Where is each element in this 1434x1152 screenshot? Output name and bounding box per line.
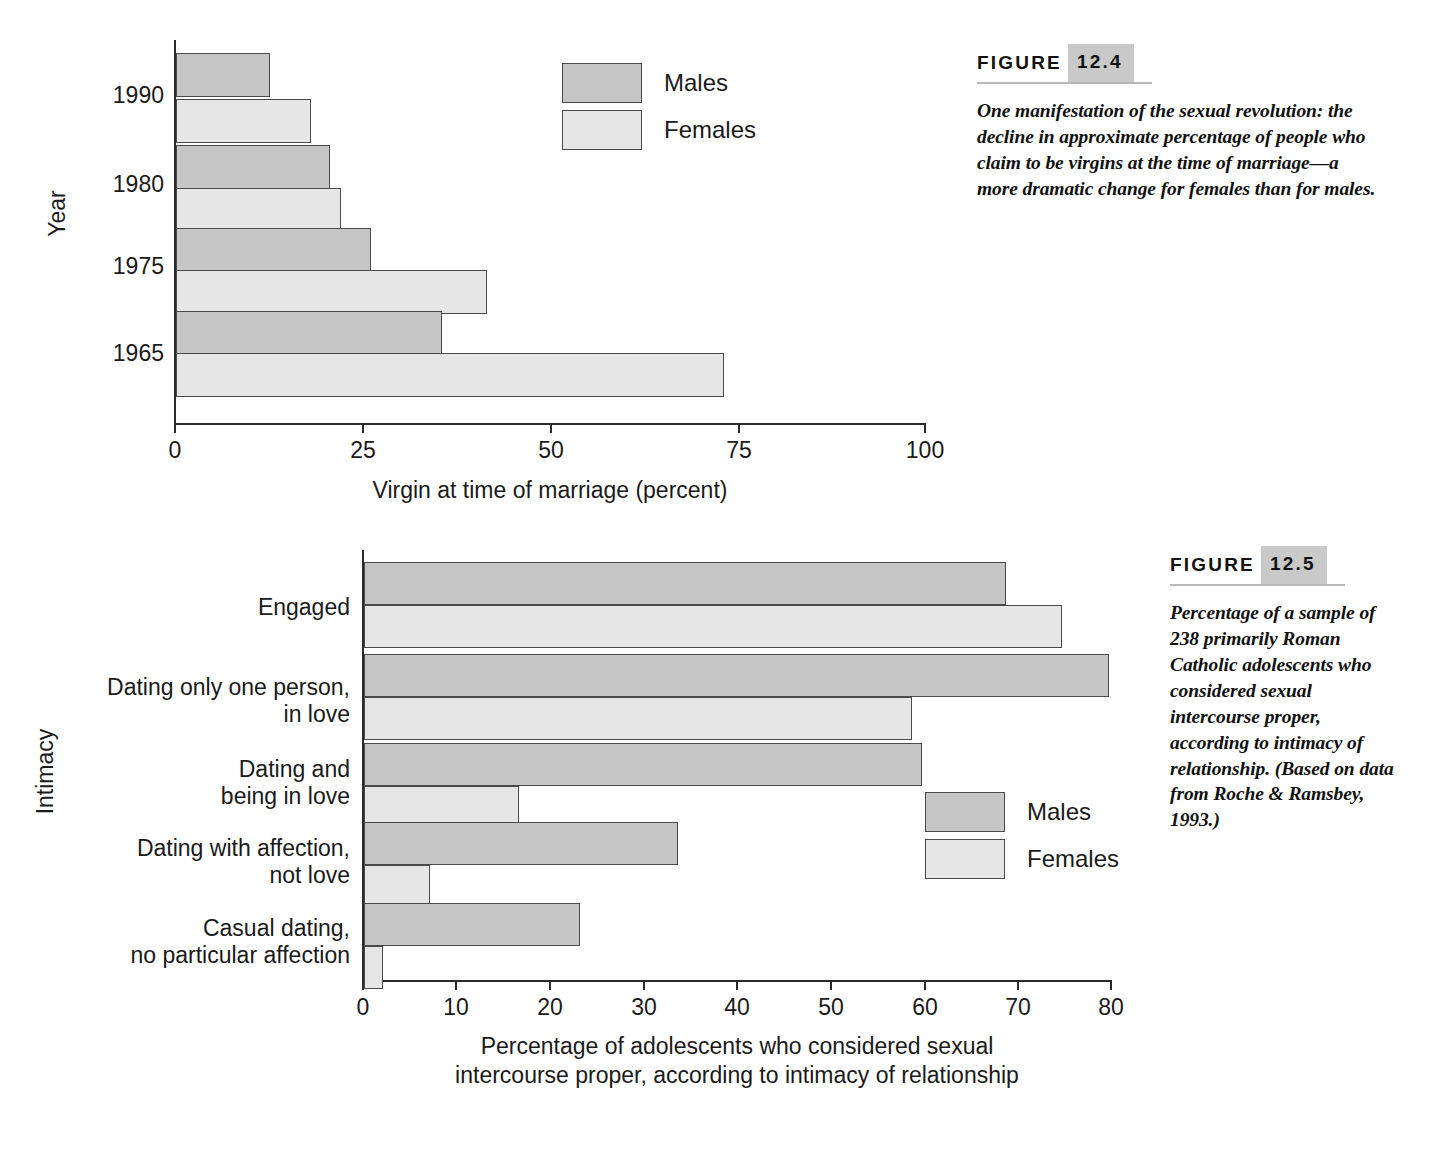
chart1-bar-1980-males bbox=[176, 145, 330, 189]
chart2-bar-casual-dating-females bbox=[364, 946, 383, 989]
legend-swatch-females-icon bbox=[562, 110, 642, 150]
chart2-bar-dating-one-person-females bbox=[364, 697, 912, 740]
chart2-bar-casual-dating-males bbox=[364, 903, 580, 946]
chart1-bar-1980-females bbox=[176, 188, 341, 232]
chart2-xticklabel-80: 80 bbox=[1071, 994, 1151, 1021]
chart1-xticklabel-25: 25 bbox=[323, 437, 403, 464]
chart2-xticklabel-10: 10 bbox=[416, 994, 496, 1021]
chart2-bar-engaged-males bbox=[364, 562, 1006, 605]
chart1-category-label-1980: 1980 bbox=[40, 171, 164, 198]
figure-12-5-caption-text: Percentage of a sample of 238 primarily … bbox=[1170, 600, 1402, 833]
figure-12-5-caption-block: FIGURE 12.5 Percentage of a sample of 23… bbox=[1170, 548, 1402, 833]
chart1-bar-1965-males bbox=[176, 311, 442, 355]
chart1-bar-1975-females bbox=[176, 270, 487, 314]
chart2-x-axis-title-line1: Percentage of adolescents who considered… bbox=[312, 1032, 1162, 1061]
chart1-xtick-75 bbox=[738, 423, 740, 433]
chart1-xticklabel-75: 75 bbox=[699, 437, 779, 464]
figure-12-5-number: 12.5 bbox=[1270, 553, 1316, 574]
figure-12-4-number-box: 12.4 bbox=[1068, 44, 1134, 82]
chart2-bar-dating-affection-males bbox=[364, 822, 678, 865]
chart2-category-label-dating-affection: Dating with affection,not love bbox=[30, 835, 350, 889]
figure-12-4-number: 12.4 bbox=[1077, 51, 1123, 72]
chart2-x-axis-title-line2: intercourse proper, according to intimac… bbox=[312, 1061, 1162, 1090]
chart1-xticklabel-0: 0 bbox=[135, 437, 215, 464]
figure-12-4-label: FIGURE bbox=[977, 52, 1062, 74]
chart2-xtick-0 bbox=[362, 980, 364, 990]
figure-12-4-heading: FIGURE 12.4 bbox=[977, 46, 1377, 80]
chart2-x-axis-title: Percentage of adolescents who considered… bbox=[312, 1032, 1162, 1090]
chart1-legend-row-males: Males bbox=[562, 62, 756, 104]
chart1-legend-row-females: Females bbox=[562, 109, 756, 151]
chart2-xtick-40 bbox=[736, 980, 738, 990]
chart2-xticklabel-20: 20 bbox=[510, 994, 590, 1021]
chart2-legend-row-females: Females bbox=[925, 838, 1119, 880]
chart2-xtick-10 bbox=[455, 980, 457, 990]
chart1-category-label-1990: 1990 bbox=[40, 82, 164, 109]
chart1-bar-1975-males bbox=[176, 228, 371, 272]
legend-swatch-males-icon bbox=[562, 63, 642, 103]
chart1-x-axis-title: Virgin at time of marriage (percent) bbox=[174, 476, 926, 505]
chart-figure-12-5: Intimacy Engaged Dating only one person,… bbox=[0, 530, 1150, 1100]
chart1-category-label-1965: 1965 bbox=[40, 340, 164, 367]
chart2-legend-row-males: Males bbox=[925, 791, 1119, 833]
chart2-xtick-20 bbox=[549, 980, 551, 990]
chart2-bar-engaged-females bbox=[364, 605, 1062, 648]
chart1-category-label-1975: 1975 bbox=[40, 253, 164, 280]
legend-swatch-females-icon bbox=[925, 839, 1005, 879]
chart2-xticklabel-40: 40 bbox=[697, 994, 777, 1021]
chart2-xtick-70 bbox=[1017, 980, 1019, 990]
chart2-xtick-80 bbox=[1110, 980, 1112, 990]
chart1-legend: Males Females bbox=[562, 62, 756, 151]
figure-12-4-caption-block: FIGURE 12.4 One manifestation of the sex… bbox=[977, 46, 1377, 202]
chart2-category-label-engaged: Engaged bbox=[30, 594, 350, 621]
chart2-xticklabel-60: 60 bbox=[885, 994, 965, 1021]
chart2-category-label-dating-one-person: Dating only one person,in love bbox=[30, 674, 350, 728]
figure-12-4-rule bbox=[977, 82, 1152, 84]
chart2-xticklabel-70: 70 bbox=[978, 994, 1058, 1021]
chart1-xtick-50 bbox=[550, 423, 552, 433]
figure-12-5-heading: FIGURE 12.5 bbox=[1170, 548, 1402, 582]
chart1-xtick-0 bbox=[174, 423, 176, 433]
chart2-legend-label-females: Females bbox=[1027, 845, 1119, 873]
chart1-xticklabel-100: 100 bbox=[885, 437, 965, 464]
chart2-legend-label-males: Males bbox=[1027, 798, 1091, 826]
figure-12-5-rule bbox=[1170, 584, 1345, 586]
figure-12-4-caption-text: One manifestation of the sexual revoluti… bbox=[977, 98, 1377, 202]
chart2-xtick-60 bbox=[924, 980, 926, 990]
chart2-xticklabel-30: 30 bbox=[604, 994, 684, 1021]
figure-12-5-label: FIGURE bbox=[1170, 554, 1255, 576]
chart2-legend: Males Females bbox=[925, 791, 1119, 880]
chart2-bar-dating-one-person-males bbox=[364, 654, 1109, 697]
chart1-xticklabel-50: 50 bbox=[511, 437, 591, 464]
chart2-category-label-casual-dating: Casual dating,no particular affection bbox=[30, 915, 350, 969]
chart1-legend-label-males: Males bbox=[664, 69, 728, 97]
chart-figure-12-4: Year 1990 1980 1975 1965 0 25 50 75 100 … bbox=[0, 0, 960, 500]
chart2-xtick-50 bbox=[830, 980, 832, 990]
chart1-bar-1965-females bbox=[176, 353, 724, 397]
chart2-xticklabel-0: 0 bbox=[323, 994, 403, 1021]
chart2-bar-dating-in-love-males bbox=[364, 743, 922, 786]
chart1-xtick-100 bbox=[924, 423, 926, 433]
chart1-bar-1990-males bbox=[176, 53, 270, 97]
legend-swatch-males-icon bbox=[925, 792, 1005, 832]
chart1-bar-1990-females bbox=[176, 99, 311, 143]
figure-12-5-number-box: 12.5 bbox=[1261, 546, 1327, 584]
chart2-xticklabel-50: 50 bbox=[791, 994, 871, 1021]
chart2-bar-dating-affection-females bbox=[364, 865, 430, 908]
chart1-xtick-25 bbox=[362, 423, 364, 433]
chart2-xtick-30 bbox=[643, 980, 645, 990]
chart1-legend-label-females: Females bbox=[664, 116, 756, 144]
chart2-category-label-dating-in-love: Dating andbeing in love bbox=[30, 756, 350, 810]
